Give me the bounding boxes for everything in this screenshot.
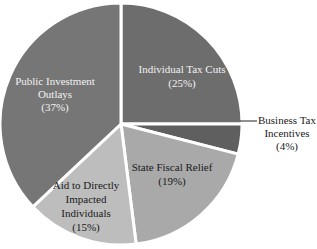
label-individual-pct: (25%) — [168, 77, 196, 90]
label-aid-line1: Aid to Directly — [53, 179, 120, 191]
label-state-pct: (19%) — [158, 175, 186, 188]
label-business-tax: Business Tax — [258, 114, 317, 126]
label-public-pct: (37%) — [41, 101, 69, 114]
label-business-pct: (4%) — [276, 140, 298, 153]
label-state-fiscal-relief: State Fiscal Relief — [132, 161, 213, 173]
label-business-incentives: Incentives — [264, 127, 309, 139]
pie-slices — [0, 3, 242, 245]
pie-chart: Individual Tax Cuts (25%) Business Tax I… — [0, 0, 317, 249]
label-aid-line3: Individuals — [61, 207, 111, 219]
label-individual-tax-cuts: Individual Tax Cuts — [138, 63, 225, 75]
label-aid-line2: Impacted — [66, 193, 107, 205]
label-public-outlays: Outlays — [38, 88, 72, 100]
label-public-investment: Public Investment — [15, 75, 95, 87]
label-aid-pct: (15%) — [72, 221, 100, 234]
